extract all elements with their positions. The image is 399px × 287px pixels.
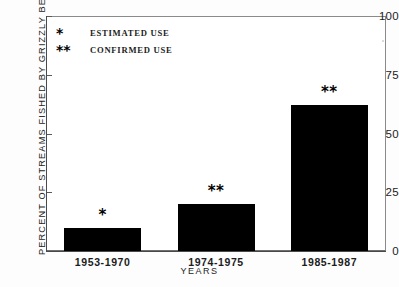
y-axis-title: PERCENT OF STREAMS FISHED BY GRIZZLY BEA… — [37, 23, 47, 255]
asterisk-double-icon: ** — [56, 43, 90, 57]
bar-marker-1985-1987: ** — [321, 85, 338, 100]
bar-chart-figure: 100 75 50 25 0 PERCENT OF STREAMS FISHED… — [0, 0, 399, 287]
legend: * ESTIMATED USE ** CONFIRMED USE — [56, 24, 173, 58]
legend-label-estimated-use: ESTIMATED USE — [90, 28, 170, 38]
x-axis-line — [46, 251, 386, 252]
scan-artifact — [382, 40, 384, 42]
y-tick-mark-75 — [47, 75, 52, 76]
bar-marker-1974-1975: ** — [208, 184, 225, 199]
bar-1985-1987 — [291, 105, 368, 251]
bar-1974-1975 — [178, 204, 255, 251]
y-tick-label-75: 75 — [361, 69, 399, 81]
legend-label-confirmed-use: CONFIRMED USE — [90, 45, 173, 55]
bar-1953-1970 — [64, 228, 141, 252]
y-tick-mark-25 — [47, 192, 52, 193]
x-axis-title: YEARS — [0, 266, 399, 276]
y-tick-mark-100 — [47, 16, 52, 17]
y-tick-label-100: 100 — [361, 10, 399, 22]
bar-marker-1953-1970: * — [98, 208, 106, 223]
legend-item-estimated-use: * ESTIMATED USE — [56, 24, 173, 41]
legend-item-confirmed-use: ** CONFIRMED USE — [56, 41, 173, 58]
asterisk-single-icon: * — [56, 26, 90, 40]
y-tick-mark-50 — [47, 134, 52, 135]
